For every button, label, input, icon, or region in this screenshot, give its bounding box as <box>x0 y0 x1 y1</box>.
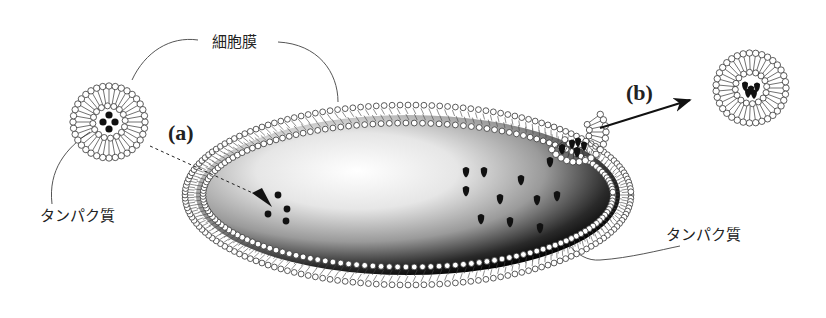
vesicle-transport-diagram: 細胞膜 タンパク質 タンパク質 (a) (b) <box>0 0 826 318</box>
micelle-left-with-protein <box>70 83 148 161</box>
membrane-leader-left <box>132 39 198 80</box>
membrane-leader-right <box>278 42 338 102</box>
budding-vesicle <box>549 111 610 165</box>
micelle-right-with-protein <box>713 50 789 126</box>
protein-right-label: タンパク質 <box>666 226 741 244</box>
membrane-label: 細胞膜 <box>212 33 257 51</box>
protein-left-label: タンパク質 <box>40 207 115 225</box>
step-b-label: (b) <box>626 80 653 105</box>
cell <box>182 102 634 288</box>
step-a-label: (a) <box>168 120 194 145</box>
